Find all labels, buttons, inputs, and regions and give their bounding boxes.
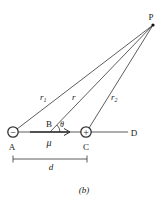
label-r: r: [72, 92, 76, 102]
line-r1: [17, 25, 153, 129]
label-B: B: [46, 119, 52, 129]
point-P-dot: [151, 23, 154, 26]
label-d: d: [49, 162, 54, 172]
charge-C-sign: +: [83, 127, 89, 138]
line-r2: [89, 25, 153, 128]
label-r2: r2: [111, 92, 118, 103]
label-C: C: [83, 142, 89, 152]
charge-A-sign: −: [10, 127, 16, 138]
label-r1: r1: [40, 92, 47, 103]
label-D: D: [131, 128, 138, 138]
label-A: A: [9, 142, 16, 152]
label-P: P: [148, 12, 153, 22]
label-mu: μ: [45, 137, 51, 148]
line-r: [50, 25, 153, 132]
label-theta: θ: [60, 120, 64, 129]
caption: (b): [79, 185, 90, 195]
dipole-diagram: − + P A B C D r1 r r2 θ μ d (b): [0, 0, 163, 202]
